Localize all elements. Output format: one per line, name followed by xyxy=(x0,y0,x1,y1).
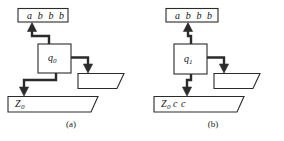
stack-shape-a xyxy=(8,97,98,113)
output-tape-shape-b xyxy=(214,74,260,89)
stack-shape-b xyxy=(154,97,244,113)
state-box-shape-a xyxy=(38,44,71,73)
caption-a: (a) xyxy=(0,119,142,129)
arrow-state-to-input-tape-b xyxy=(183,23,192,45)
input-tape-shape-a xyxy=(18,9,68,23)
panel-a: a b b b q0 Z0 (a) xyxy=(0,0,142,141)
state-box-shape-b xyxy=(174,44,207,74)
arrow-state-to-input-tape-a xyxy=(27,23,49,45)
arrow-state-to-output-tape-a xyxy=(71,58,93,74)
input-tape-shape-b xyxy=(166,9,218,23)
pda-configuration-figure: a b b b q0 Z0 (a) xyxy=(0,0,284,141)
output-tape-shape-a xyxy=(78,74,124,89)
arrow-state-to-output-tape-b xyxy=(207,58,229,74)
arrow-state-to-stack-a xyxy=(19,73,56,96)
arrow-state-to-stack-b xyxy=(182,74,191,96)
panel-b: a b b b q1 Z0c c (b) xyxy=(142,0,284,141)
caption-b: (b) xyxy=(142,119,284,129)
